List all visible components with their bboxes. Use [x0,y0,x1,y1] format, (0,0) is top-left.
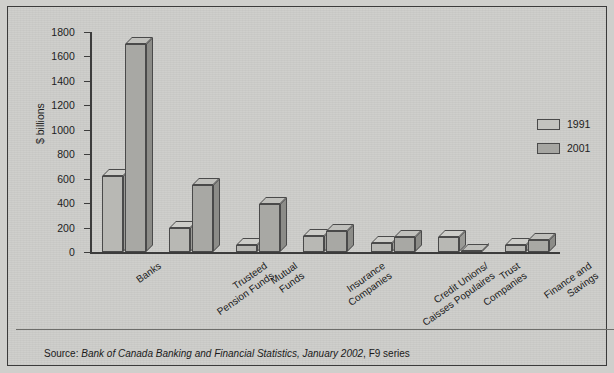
category-label: Insurance Companies [340,260,395,309]
bar-1991 [505,245,526,252]
y-tick: 1800 [84,32,90,33]
bar-group [438,32,482,252]
figure-frame: $ billions 18001600140012001000800600400… [7,6,607,366]
bar-1991 [236,245,257,252]
y-tick: 400 [84,203,90,204]
bar-front-face [102,176,123,252]
bar-front-face [505,245,526,252]
y-tick: 1400 [84,81,90,82]
bar-side-face [213,178,220,252]
bar-1991 [169,228,190,252]
bar-side-face [146,37,153,252]
y-tick-label: 1200 [51,99,75,111]
y-tick-label: 0 [69,246,75,258]
y-tick: 600 [84,179,90,180]
bar-front-face [438,237,459,252]
bar-2001 [528,240,549,252]
category-label: Mutual Funds [269,260,307,297]
legend-swatch [537,119,560,130]
bar-group [303,32,347,252]
bar-group [169,32,213,252]
bar-group [236,32,280,252]
bar-2001 [326,231,347,252]
y-tick-label: 800 [57,148,75,160]
y-tick: 1000 [84,130,90,131]
y-tick-label: 1000 [51,124,75,136]
source-note: Source: Bank of Canada Banking and Finan… [44,348,410,359]
y-tick: 200 [84,228,90,229]
bar-2001 [394,237,415,252]
bar-front-face [169,228,190,252]
bar-side-face [280,197,287,252]
y-tick: 800 [84,154,90,155]
y-axis-title: $ billions [34,103,46,144]
source-publication: Bank of Canada Banking and Financial Sta… [81,348,363,359]
y-tick-label: 200 [57,222,75,234]
bar-group [371,32,415,252]
legend-label: 2001 [567,142,590,154]
bar-1991 [303,236,324,252]
category-label: Banks [134,260,164,286]
bar-2001 [192,185,213,252]
y-tick: 1600 [84,56,90,57]
source-suffix: , F9 series [363,348,410,359]
x-axis-line [90,252,560,254]
bar-front-face [125,44,146,252]
bar-front-face [259,204,280,252]
source-prefix: Source: [44,348,81,359]
y-tick: 1200 [84,105,90,106]
source-divider [16,329,614,330]
legend-item[interactable]: 1991 [537,115,590,133]
legend-item[interactable]: 2001 [537,139,590,157]
bar-front-face [326,231,347,252]
y-tick-label: 1600 [51,50,75,62]
figure: $ billions 18001600140012001000800600400… [0,0,614,373]
y-tick-label: 400 [57,197,75,209]
plot-area: 180016001400120010008006004002000 BanksT… [90,32,560,252]
bar-front-face [303,236,324,252]
bar-2001 [259,204,280,252]
legend: 19912001 [537,115,590,163]
bar-2001 [461,251,482,253]
y-tick-label: 1800 [51,26,75,38]
category-label: Trusteed Pension Funds [208,260,276,318]
bar-front-face [236,245,257,252]
y-tick-label: 1400 [51,75,75,87]
bar-front-face [394,237,415,252]
category-label: Finance and Savings [542,260,601,311]
bar-front-face [192,185,213,252]
bar-2001 [125,44,146,252]
bar-front-face [528,240,549,252]
bar-group [102,32,146,252]
legend-swatch [537,143,560,154]
y-tick: 0 [84,252,90,253]
y-axis-line [90,32,92,253]
legend-label: 1991 [567,118,590,130]
bar-1991 [438,237,459,252]
bar-1991 [371,243,392,252]
y-tick-label: 600 [57,173,75,185]
bar-front-face [371,243,392,252]
bar-1991 [102,176,123,252]
